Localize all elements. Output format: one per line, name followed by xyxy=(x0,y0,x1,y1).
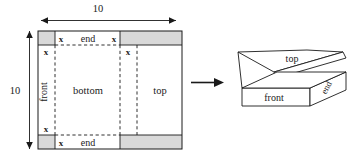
arrowhead-right xyxy=(169,17,176,24)
box-3d: top front end xyxy=(238,50,346,106)
label-x-top-left: x xyxy=(59,34,64,44)
label-box-top: top xyxy=(286,53,299,64)
label-end-top: end xyxy=(81,33,95,44)
shaded-corner-bottom-right xyxy=(120,135,182,149)
arrowhead-up xyxy=(26,31,33,38)
arrowhead-down xyxy=(26,142,33,149)
label-x-top-right: x xyxy=(112,34,117,44)
label-end-bottom: end xyxy=(81,137,95,148)
arrowhead-transform xyxy=(214,78,224,87)
label-top-panel: top xyxy=(153,85,166,96)
shaded-corner-top-right xyxy=(120,31,182,45)
label-front-panel: front xyxy=(38,82,49,102)
arrowhead-left xyxy=(41,17,48,24)
top-dimension-label: 10 xyxy=(93,3,104,14)
box-construction-diagram: 10 10 xyxy=(0,0,363,161)
label-x-bottom-left: x xyxy=(59,138,64,148)
top-dimension-arrow xyxy=(41,17,176,24)
label-box-front: front xyxy=(264,92,284,103)
label-x-upper-right: x xyxy=(126,47,131,57)
shaded-corner-top-left xyxy=(38,31,55,45)
figure-container: 10 10 xyxy=(0,0,363,161)
transform-arrow xyxy=(191,78,224,87)
label-x-upper-left: x xyxy=(44,47,49,57)
shaded-corner-bottom-left xyxy=(38,135,55,149)
left-dimension-arrow xyxy=(26,31,33,149)
left-dimension-label: 10 xyxy=(10,85,21,96)
box-hinge-edge xyxy=(238,52,242,88)
label-bottom-panel: bottom xyxy=(73,85,103,96)
label-x-lower-left: x xyxy=(44,124,49,134)
